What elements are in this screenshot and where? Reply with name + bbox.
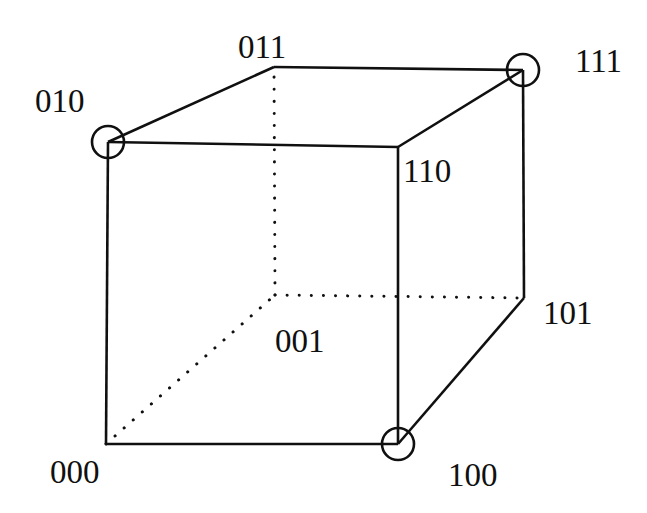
vertex-label-101: 101: [543, 297, 593, 330]
cube-edge-000-001: [106, 295, 275, 444]
cube-drawing: [0, 0, 647, 513]
cube-edge-010-110: [108, 142, 398, 147]
vertex-marker-layer: [92, 54, 539, 460]
vertex-label-001: 001: [275, 325, 325, 358]
cube-edge-110-111: [398, 70, 523, 147]
cube-edge-001-101: [275, 295, 524, 298]
cube-edge-010-011: [108, 67, 274, 142]
cube-edge-011-111: [274, 67, 523, 70]
vertex-label-110: 110: [403, 155, 451, 188]
edge-layer-dotted: [106, 67, 524, 444]
vertex-label-011: 011: [238, 31, 286, 64]
cube-edge-001-011: [274, 67, 275, 295]
vertex-label-010: 010: [35, 85, 85, 118]
cube-edge-100-101: [398, 298, 524, 444]
vertex-label-100: 100: [448, 459, 498, 492]
vertex-label-111: 111: [575, 45, 622, 78]
cube-edge-111-101: [523, 70, 524, 298]
cube-edge-000-010: [106, 142, 108, 444]
vertex-label-000: 000: [50, 456, 100, 489]
cube-diagram-figure: 000010110100001011111101: [0, 0, 647, 513]
